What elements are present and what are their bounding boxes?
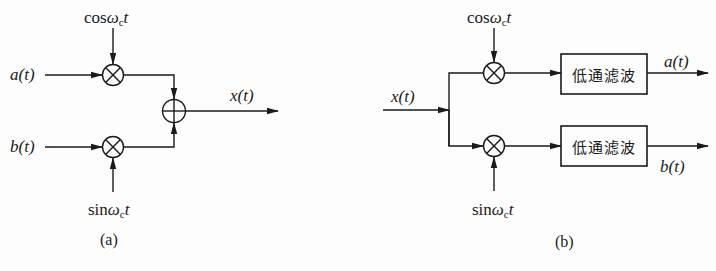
carrier-func: sin (88, 200, 108, 219)
multiplier-icon (484, 63, 505, 84)
cos-carrier-label: cosωct (84, 9, 128, 28)
carrier-omega: ω (108, 200, 120, 219)
carrier-func: cos (84, 8, 107, 27)
multiplier-icon (103, 65, 124, 86)
cos-carrier-label: cosωct (467, 9, 511, 28)
carrier-func: cos (467, 8, 490, 27)
multiplier-icon (103, 137, 124, 158)
output-a-label: a(t) (664, 53, 689, 70)
diagram-canvas: a(t) b(t) cosωct sinωct x(t) (a) x(t) co… (0, 0, 716, 271)
adder-icon (163, 100, 186, 123)
carrier-t: t (124, 8, 129, 27)
lowpass-filter-label: 低通滤波 (561, 126, 647, 166)
caption-b: (b) (555, 234, 574, 250)
carrier-omega: ω (492, 200, 504, 219)
carrier-t: t (125, 200, 130, 219)
sin-carrier-label: sinωct (472, 201, 513, 220)
caption-a: (a) (100, 232, 118, 248)
output-b-label: b(t) (660, 158, 685, 175)
carrier-func: sin (472, 200, 492, 219)
carrier-t: t (507, 8, 512, 27)
sin-carrier-label: sinωct (88, 201, 129, 220)
input-x-label: x(t) (391, 88, 415, 105)
output-x-label: x(t) (230, 87, 254, 104)
carrier-omega: ω (490, 8, 502, 27)
lowpass-filter-label: 低通滤波 (561, 54, 647, 94)
input-a-label: a(t) (10, 66, 35, 83)
input-b-label: b(t) (10, 138, 35, 155)
panel-a-wiring (45, 28, 278, 192)
carrier-omega: ω (107, 8, 119, 27)
multiplier-icon (484, 136, 505, 157)
carrier-t: t (509, 200, 514, 219)
